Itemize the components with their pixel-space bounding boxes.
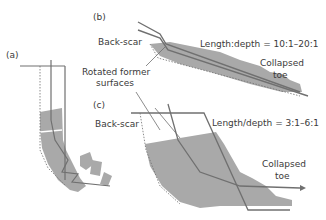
panel-a-label: (a) [6,50,19,60]
panel-b-toe-1: Collapsed [260,58,304,68]
panel-b-label: (b) [93,12,106,22]
panel-a-slid-mass [40,108,86,192]
panel-c-toe-1: Collapsed [262,159,306,169]
panel-c-toe-2: toe [275,171,290,181]
panel-c: (c) Back-scar Length/depth = 3:1–6:1 Col… [93,100,319,210]
panel-c-back-scar: Back-scar [95,119,139,129]
panel-c-label: (c) [93,100,105,110]
rotated-label-2: surfaces [96,78,134,88]
landslide-diagram: (a) (b) Back-scar Length:depth = 10:1–20… [0,0,326,220]
rotated-label-1: Rotated former [82,67,151,77]
panel-b-back-scar: Back-scar [98,37,142,47]
panel-b-ratio: Length:depth = 10:1–20:1 [200,39,318,49]
panel-c-ratio: Length/depth = 3:1–6:1 [212,118,319,128]
panel-b-toe-2: toe [273,70,288,80]
